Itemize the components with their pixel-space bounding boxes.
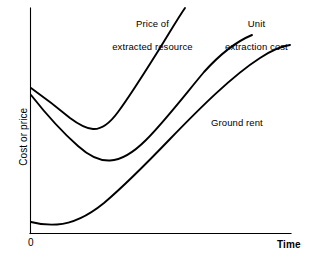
annotation-ground-rent: Ground rent [211, 117, 281, 129]
annotation-price-line-2: extracted resource [112, 41, 192, 52]
chart-figure: Price of extracted resource Unit extract… [0, 0, 318, 262]
x-axis-label: Time [277, 239, 301, 251]
annotation-unit-line-1: Unit [248, 18, 265, 29]
annotation-price-of-extracted-resource: Price of extracted resource [101, 6, 193, 64]
origin-label: 0 [28, 237, 34, 249]
annotation-price-line-1: Price of [136, 18, 169, 29]
annotation-unit-line-2: extraction cost [225, 41, 288, 52]
y-axis-label: Cost or price [18, 97, 30, 177]
curve-ground-rent [31, 45, 290, 225]
annotation-unit-extraction-cost: Unit extraction cost [208, 6, 294, 64]
